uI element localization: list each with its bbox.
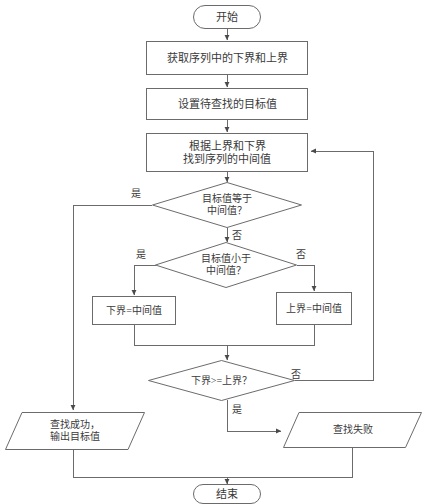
node-target-less-than-mid-label: 目标值小于 中间值？	[201, 253, 251, 277]
node-set-upper-bound-label: 上界=中间值	[286, 303, 342, 315]
node-end[interactable]: 结束	[193, 484, 261, 504]
edge-label-eq-no: 否	[232, 227, 242, 242]
node-get-bounds[interactable]: 获取序列中的下界和上界	[146, 41, 308, 75]
node-search-failure-label: 查找失败	[333, 424, 373, 436]
node-start[interactable]: 开始	[193, 5, 261, 29]
edge-label-lt-no: 否	[296, 246, 306, 261]
node-bounds-crossed[interactable]: 下界>=上界？	[148, 360, 295, 401]
node-target-equals-mid-label: 目标值等于 中间值？	[202, 193, 252, 217]
node-find-mid-label: 根据上界和下界 找到序列的中间值	[183, 140, 271, 166]
node-target-equals-mid[interactable]: 目标值等于 中间值？	[152, 182, 302, 228]
edge-label-lt-yes: 是	[136, 246, 146, 261]
node-set-lower-bound-label: 下界=中间值	[106, 305, 162, 317]
node-start-label: 开始	[216, 11, 238, 24]
node-set-upper-bound[interactable]: 上界=中间值	[276, 292, 352, 325]
node-search-failure[interactable]: 查找失败	[283, 412, 422, 448]
edge-label-cross-yes: 是	[232, 401, 242, 416]
node-get-bounds-label: 获取序列中的下界和上界	[167, 52, 288, 65]
node-end-label: 结束	[216, 488, 238, 501]
node-set-target-label: 设置待查找的目标值	[178, 98, 277, 111]
node-bounds-crossed-label: 下界>=上界？	[191, 375, 252, 387]
node-set-target[interactable]: 设置待查找的目标值	[146, 88, 308, 120]
node-search-success-label: 查找成功， 输出目标值	[50, 419, 100, 443]
node-search-success[interactable]: 查找成功， 输出目标值	[5, 412, 145, 450]
edge-label-cross-no: 否	[291, 366, 301, 381]
node-find-mid[interactable]: 根据上界和下界 找到序列的中间值	[146, 133, 308, 172]
node-target-less-than-mid[interactable]: 目标值小于 中间值？	[155, 242, 297, 288]
edge-label-eq-yes: 是	[131, 185, 141, 200]
flowchart-canvas: 开始 获取序列中的下界和上界 设置待查找的目标值 根据上界和下界 找到序列的中间…	[0, 0, 426, 504]
node-set-lower-bound[interactable]: 下界=中间值	[92, 296, 176, 325]
